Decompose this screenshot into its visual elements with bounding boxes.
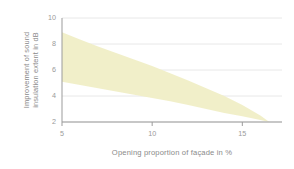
chart-plot-area <box>0 0 294 169</box>
x-tick-label: 10 <box>142 129 162 138</box>
y-axis-title-text: Improvement of sound insulation extent i… <box>22 32 40 109</box>
band-polygon <box>62 32 269 122</box>
x-tick-label: 5 <box>52 129 72 138</box>
y-tick-label: 10 <box>42 13 56 22</box>
y-axis-title-line1: Improvement of sound <box>22 32 31 109</box>
y-tick-label: 8 <box>42 39 56 48</box>
y-axis-title-line2: insulation extent in dB <box>31 32 40 108</box>
tick-marks <box>62 122 242 126</box>
x-axis-title: Opening proportion of façade in % <box>62 148 282 157</box>
y-tick-label: 4 <box>42 91 56 100</box>
chart-figure: Improvement of sound insulation extent i… <box>0 0 294 169</box>
data-band-series <box>62 32 269 122</box>
y-axis-title: Improvement of sound insulation extent i… <box>18 18 44 122</box>
y-tick-label: 2 <box>42 117 56 126</box>
x-tick-label: 15 <box>232 129 252 138</box>
y-tick-label: 6 <box>42 65 56 74</box>
